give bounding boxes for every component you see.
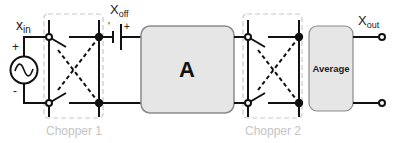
x-off-label: Xoff — [110, 2, 129, 19]
chopper1-label: Chopper 1 — [46, 124, 102, 138]
amp-output-wires — [234, 37, 248, 103]
chopper1 — [46, 20, 102, 117]
chopper2 — [245, 20, 302, 117]
source-plus-label: + — [12, 40, 19, 54]
output-terminals — [353, 34, 385, 106]
battery-minus-label: ' — [108, 21, 110, 32]
average-label: Average — [312, 63, 349, 74]
amplifier-label: A — [179, 57, 195, 82]
battery-plus-label: + — [124, 21, 130, 32]
source-minus-label: - — [13, 84, 17, 98]
chopper2-label: Chopper 2 — [245, 124, 301, 138]
offset-battery — [99, 24, 142, 103]
x-out-label: Xout — [358, 13, 380, 30]
chopper-circuit-diagram: xin + - Xoff ' + A Average Xout Chopper … — [0, 0, 394, 143]
x-in-label: xin — [16, 17, 31, 35]
